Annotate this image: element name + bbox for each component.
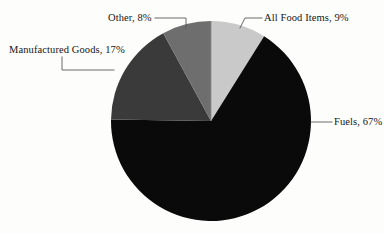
pie-label-fuels: Fuels, 67%: [334, 117, 382, 128]
pie-label-other: Other, 8%: [108, 13, 152, 24]
pie-label-all-food-items: All Food Items, 9%: [264, 13, 349, 24]
pie-chart-figure: All Food Items, 9% Other, 8% Manufacture…: [0, 0, 384, 234]
pie-wedges: [111, 21, 311, 221]
pie-label-manufactured-goods: Manufactured Goods, 17%: [9, 45, 125, 56]
leader-line-manufactured-goods: [62, 57, 114, 70]
pie-chart-canvas: [0, 0, 384, 234]
